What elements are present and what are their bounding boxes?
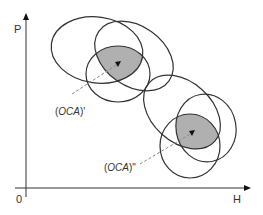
y-axis-arrow-icon (23, 13, 29, 20)
lower-point-label: (OCA)" (104, 162, 136, 173)
origin-label: 0 (16, 193, 22, 205)
diagram-canvas (0, 0, 263, 215)
x-axis-label: H (233, 193, 241, 205)
upper-point-label: (OCA)' (55, 106, 85, 117)
y-axis-label: P (14, 23, 21, 35)
x-axis-arrow-icon (244, 185, 251, 191)
